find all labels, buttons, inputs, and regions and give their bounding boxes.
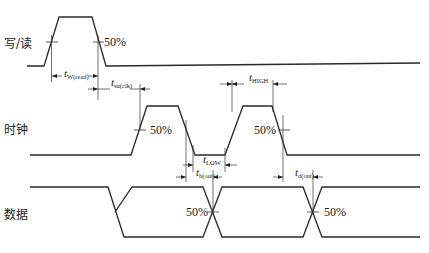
- svg-text:tW(read): tW(read): [64, 67, 89, 81]
- signal-label-data: 数据: [4, 207, 28, 222]
- threshold-label-data-1: 50%: [186, 205, 208, 219]
- t-d-out-annotation: td(out): [273, 166, 323, 215]
- signal-label-clock: 时钟: [4, 122, 28, 137]
- t-w-read-annotation: tW(read): [52, 67, 98, 81]
- timing-diagram: 写/读 时钟 数据 50% tW(read) tsu(clk): [0, 0, 429, 253]
- signal-label-write-read: 写/读: [4, 37, 32, 51]
- threshold-label-data-2: 50%: [324, 205, 346, 219]
- threshold-label-clock-rise: 50%: [150, 123, 172, 137]
- t-high-annotation: tHIGH: [220, 71, 287, 86]
- threshold-label-clock-fall: 50%: [254, 123, 276, 137]
- svg-text:tHIGH: tHIGH: [249, 71, 269, 84]
- write-read-waveform: [27, 17, 420, 100]
- clock-waveform: [30, 80, 420, 182]
- svg-text:td(out): td(out): [295, 166, 314, 180]
- data-waveform: [30, 187, 420, 237]
- t-su-clk-annotation: tsu(clk): [88, 76, 150, 130]
- threshold-label-write-read: 50%: [104, 35, 126, 49]
- svg-text:tsu(clk): tsu(clk): [111, 76, 132, 90]
- svg-text:th(out): th(out): [196, 166, 215, 180]
